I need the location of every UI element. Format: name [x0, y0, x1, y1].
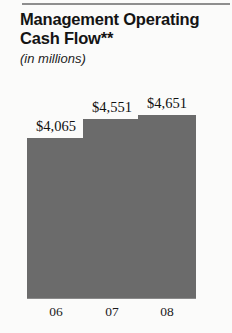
bar-group-08: $4,651 08: [138, 115, 196, 298]
bar-baseline-tick-07: [83, 298, 141, 299]
bar-rect-06: [27, 138, 85, 298]
bar-rect-08: [138, 115, 196, 298]
management-operating-cash-flow-chart: Management Operating Cash Flow** (in mil…: [0, 0, 232, 333]
bar-baseline-tick-08: [138, 298, 196, 299]
bar-rect-07: [83, 119, 141, 298]
chart-subtitle: (in millions): [20, 51, 226, 67]
bar-group-07: $4,551 07: [83, 119, 141, 298]
bar-baseline-tick-06: [27, 298, 85, 299]
bar-value-label-08: $4,651: [126, 95, 208, 112]
bar-category-label-08: 08: [126, 304, 208, 320]
top-divider-rule: [22, 3, 230, 5]
bar-group-06: $4,065 06: [27, 138, 85, 298]
chart-heading: Management Operating Cash Flow** (in mil…: [20, 10, 226, 67]
chart-title: Management Operating Cash Flow**: [20, 10, 226, 48]
plot-area: $4,065 06 $4,551 07 $4,651 08: [0, 86, 232, 333]
